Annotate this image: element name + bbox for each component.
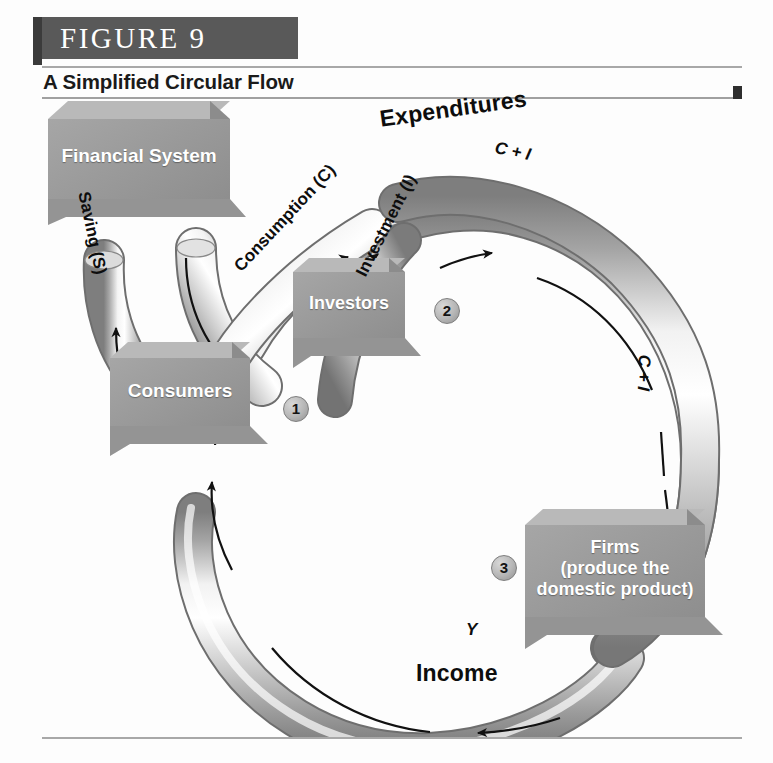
arrow-ci-top [440, 253, 492, 268]
node-consumers[interactable]: Consumers [110, 358, 250, 426]
ci-trail-right [661, 432, 664, 476]
header-rule-top [42, 66, 742, 68]
figure-header: FIGURE 9 A Simplified Circular Flow [0, 0, 773, 100]
step-marker-2[interactable]: 2 [434, 298, 460, 324]
node-financial-system[interactable]: Financial System [48, 119, 230, 199]
box-front-face [110, 358, 250, 426]
figure-subtitle: A Simplified Circular Flow [43, 70, 294, 94]
box-top-face [110, 342, 250, 358]
box-top-face [293, 258, 405, 272]
node-firms[interactable]: Firms (produce the domestic product) [525, 525, 705, 617]
header-rule-endcap [733, 86, 742, 99]
step-marker-1[interactable]: 1 [283, 396, 309, 422]
arrow-income-into-consumers [212, 482, 232, 570]
box-top-face [525, 509, 705, 525]
box-front-face [293, 272, 405, 338]
box-front-face [525, 525, 705, 617]
box-front-face [48, 119, 230, 199]
figure-number-label: FIGURE 9 [60, 22, 206, 55]
header-accent-bar [33, 17, 42, 65]
node-investors[interactable]: Investors [293, 272, 405, 338]
figure-bottom-rule [42, 737, 742, 739]
box-top-face [48, 101, 230, 119]
header-rule-sub [42, 97, 742, 99]
circular-flow-diagram: Financial System Consumers Investors Fir… [0, 100, 773, 737]
figure-page: FIGURE 9 A Simplified Circular Flow [0, 0, 773, 763]
step-marker-3[interactable]: 3 [491, 555, 517, 581]
